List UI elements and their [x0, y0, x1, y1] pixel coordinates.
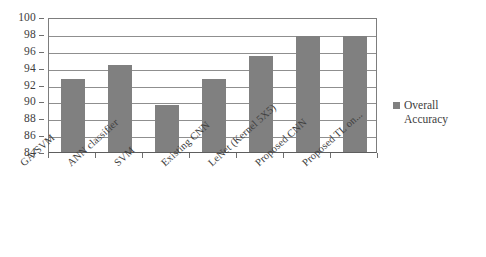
legend-label-line2: Accuracy: [404, 113, 448, 127]
bar: [296, 36, 320, 152]
y-tick-label: 96: [24, 46, 36, 58]
bar: [343, 36, 367, 152]
bar-chart: 1009896949290888684 GA-SVMANN classifier…: [0, 0, 486, 257]
gridline: [49, 70, 376, 71]
y-tick-mark: [39, 102, 44, 103]
legend-label-line1: Overall: [404, 99, 438, 111]
bar: [108, 65, 132, 152]
y-tick-mark: [39, 69, 44, 70]
x-tick-mark: [95, 153, 96, 158]
legend-square-swatch: [393, 102, 400, 109]
x-tick-mark: [377, 153, 378, 158]
x-tick-mark: [142, 153, 143, 158]
y-tick-label: 92: [24, 80, 36, 92]
x-tick-mark: [330, 153, 331, 158]
y-axis: 1009896949290888684: [0, 0, 48, 160]
y-tick-label: 90: [24, 97, 36, 109]
y-tick-label: 100: [18, 12, 36, 24]
x-tick-mark: [189, 153, 190, 158]
bar: [202, 79, 226, 152]
y-tick-mark: [39, 35, 44, 36]
legend-label: OverallAccuracy: [393, 99, 448, 125]
gridline: [49, 36, 376, 37]
bar: [61, 79, 85, 152]
x-tick-mark: [48, 153, 49, 158]
chart-legend: OverallAccuracy: [393, 98, 483, 126]
y-tick-label: 88: [24, 114, 36, 126]
y-tick-mark: [39, 52, 44, 53]
y-tick-label: 98: [24, 29, 36, 41]
y-tick-mark: [39, 86, 44, 87]
gridline: [49, 53, 376, 54]
y-tick-mark: [39, 18, 44, 19]
y-tick-label: 94: [24, 63, 36, 75]
y-tick-label: 86: [24, 130, 36, 142]
x-tick-mark: [236, 153, 237, 158]
x-tick-mark: [283, 153, 284, 158]
y-tick-mark: [39, 119, 44, 120]
